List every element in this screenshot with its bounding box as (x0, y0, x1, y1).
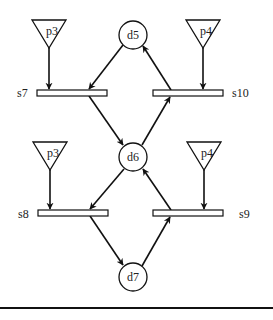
transition-s9: s9 (153, 207, 250, 221)
transition-label: s9 (239, 207, 250, 221)
source-label: p3 (46, 24, 58, 38)
arc-d5-to-s7 (89, 45, 123, 89)
arc-s8-to-d7 (90, 216, 123, 265)
transition-label: s8 (18, 207, 29, 221)
transition-bar (153, 210, 223, 216)
places-group: d5d6d7 (119, 21, 147, 291)
transition-label: s10 (232, 86, 249, 100)
place-d5: d5 (119, 21, 147, 49)
transition-s8: s8 (18, 207, 108, 221)
place-d7: d7 (119, 263, 147, 291)
source-p3-top: p3 (32, 20, 66, 48)
transition-s10: s10 (153, 86, 249, 100)
place-d6: d6 (119, 143, 147, 171)
place-label: d6 (127, 150, 139, 164)
source-label: p4 (201, 146, 213, 160)
arc-d6-to-s10 (142, 97, 170, 145)
transition-bar (37, 90, 107, 96)
transition-label: s7 (17, 86, 28, 100)
place-label: d7 (127, 270, 139, 284)
source-p3-bottom: p3 (33, 142, 67, 170)
source-p4-bottom: p4 (187, 142, 221, 170)
transition-bar (38, 210, 108, 216)
source-label: p3 (47, 146, 59, 160)
arc-s7-to-d6 (89, 96, 123, 145)
place-label: d5 (127, 28, 139, 42)
transition-s7: s7 (17, 86, 107, 100)
source-label: p4 (200, 24, 212, 38)
arc-d7-to-s9 (142, 217, 170, 266)
petri-net-diagram: p3p4p3p4 s7s10s8s9 d5d6d7 (0, 0, 273, 320)
source-p4-top: p4 (186, 20, 220, 48)
arc-s10-to-d5 (143, 46, 171, 90)
arc-d6-to-s8 (90, 169, 124, 209)
arc-s9-to-d6 (143, 169, 171, 210)
transition-bar (153, 90, 223, 96)
